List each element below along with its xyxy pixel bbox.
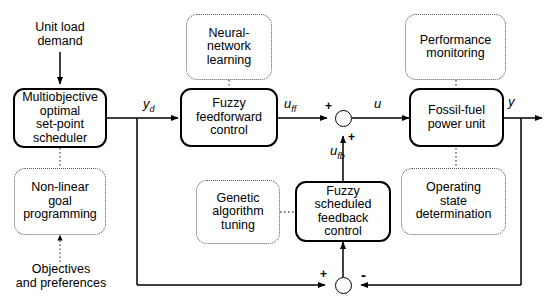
- signal-label-ufb: ufb: [330, 143, 345, 161]
- block-performance-monitoring[interactable]: Performancemonitoring: [405, 14, 506, 80]
- signal-ufb-sub: fb: [337, 151, 345, 161]
- signal-y-base: y: [508, 94, 515, 109]
- objectives-and-preferences-label: Objectivesand preferences: [0, 262, 122, 291]
- signal-label-y: y: [508, 94, 515, 109]
- signal-u-base: u: [374, 96, 381, 111]
- block-operating-state-determination[interactable]: Operatingstatedetermination: [401, 168, 506, 235]
- unit-load-demand-label: Unit loaddemand: [12, 20, 108, 49]
- block-nonlinear-goal-programming[interactable]: Non-lineargoalprogramming: [14, 168, 106, 235]
- summing-junction-control: [335, 110, 352, 127]
- summing-junction-error: [335, 277, 352, 294]
- sign-sum-error-right-minus: -: [361, 267, 366, 282]
- block-multiobjective-scheduler[interactable]: Multiobjectiveoptimalset-pointscheduler: [13, 88, 107, 148]
- block-diagram-canvas: Unit loaddemand Objectivesand preference…: [0, 0, 548, 308]
- sign-sum-control-left-plus: +: [325, 100, 332, 112]
- signal-label-yd: yd: [143, 96, 155, 114]
- block-neural-network-learning[interactable]: Neural-networklearning: [186, 14, 272, 80]
- block-genetic-algorithm-tuning[interactable]: Geneticalgorithmtuning: [196, 180, 280, 244]
- signal-uff-sub: ff: [291, 104, 296, 114]
- signal-label-u: u: [374, 96, 381, 111]
- block-fuzzy-scheduled-feedback-control[interactable]: Fuzzyscheduledfeedbackcontrol: [295, 181, 391, 242]
- block-fossil-fuel-power-unit[interactable]: Fossil-fuelpower unit: [409, 88, 504, 147]
- sign-sum-control-bottom-plus: +: [348, 131, 355, 143]
- block-fuzzy-feedforward-control[interactable]: Fuzzyfeedforwardcontrol: [180, 88, 278, 147]
- sign-sum-error-left-plus: +: [320, 268, 327, 280]
- signal-label-uff: uff: [284, 96, 296, 114]
- signal-yd-sub: d: [150, 104, 155, 114]
